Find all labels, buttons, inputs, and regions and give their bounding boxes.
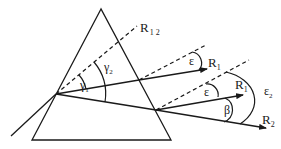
label-epsilon2: ε2 bbox=[264, 84, 273, 100]
label-r2: R2 bbox=[262, 112, 275, 129]
refracted-ray-1 bbox=[56, 80, 139, 94]
label-epsilon-upper: ε bbox=[189, 54, 194, 68]
label-r1-lower: R1 bbox=[235, 77, 248, 94]
r12-dashed-line bbox=[56, 26, 137, 94]
label-r12: R1 2 bbox=[140, 20, 160, 37]
incident-ray bbox=[11, 94, 56, 136]
prism-diagram: R1 2 R1 R1 R2 γ1 γ2 ε ε β ε2 bbox=[0, 0, 281, 149]
r1-upper-ray bbox=[139, 69, 207, 80]
label-r1-upper: R1 bbox=[208, 55, 221, 72]
label-beta: β bbox=[224, 103, 230, 117]
label-epsilon-lower: ε bbox=[204, 85, 209, 99]
label-gamma2: γ2 bbox=[103, 60, 113, 76]
label-gamma1: γ1 bbox=[79, 78, 89, 94]
r2-ray bbox=[156, 110, 266, 128]
